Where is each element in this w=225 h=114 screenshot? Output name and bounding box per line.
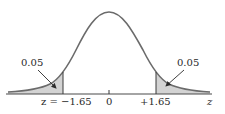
right-tail-area-label: 0.05 [177, 57, 199, 68]
left-tail-area-label: 0.05 [21, 57, 43, 68]
left-cutoff-label: z = −1.65 [41, 96, 92, 107]
normal-distribution-diagram: 0.05 0.05 z = −1.65 0 +1.65 z [0, 0, 225, 114]
right-cutoff-label: +1.65 [140, 96, 171, 107]
z-axis-label: z [206, 96, 213, 107]
bell-curve [8, 12, 210, 92]
right-tail-arrow [166, 70, 184, 86]
center-label: 0 [106, 96, 112, 107]
